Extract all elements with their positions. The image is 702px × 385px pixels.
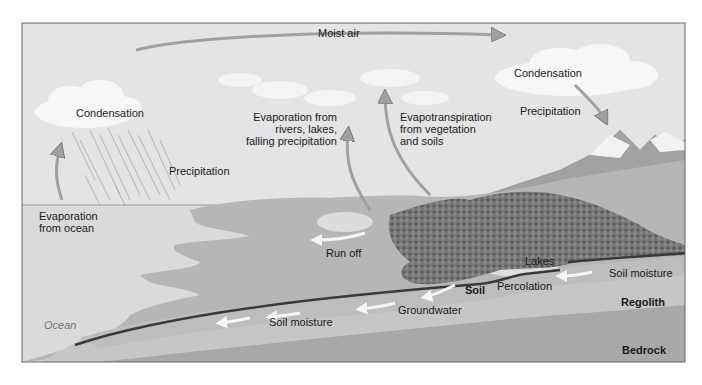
- label-regolith: Regolith: [621, 296, 665, 308]
- label-soil-moisture-right: Soil moisture: [609, 267, 673, 279]
- label-groundwater: Groundwater: [398, 304, 462, 316]
- label-percolation: Percolation: [497, 280, 552, 292]
- label-line: falling precipitation: [239, 135, 337, 147]
- label-line: from ocean: [39, 222, 98, 234]
- label-ocean: Ocean: [44, 319, 76, 331]
- label-soil: Soil: [465, 284, 485, 296]
- label-lakes: Lakes: [525, 255, 554, 267]
- label-condensation-left: Condensation: [76, 107, 144, 119]
- water-cycle-diagram: Moist air Condensation Precipitation Eva…: [0, 0, 702, 385]
- label-line: from vegetation: [400, 123, 492, 135]
- label-precipitation-right: Precipitation: [520, 105, 581, 117]
- label-line: Evaporation from: [239, 111, 337, 123]
- label-evaporation-rivers: Evaporation from rivers, lakes, falling …: [239, 111, 337, 147]
- label-line: rivers, lakes,: [239, 123, 337, 135]
- label-evapotranspiration: Evapotranspiration from vegetation and s…: [400, 111, 492, 147]
- label-run-off: Run off: [326, 247, 361, 259]
- label-moist-air: Moist air: [318, 27, 360, 39]
- label-evaporation-ocean: Evaporation from ocean: [39, 210, 98, 234]
- label-condensation-right: Condensation: [514, 67, 582, 79]
- lake-patch: [317, 212, 373, 232]
- label-line: and soils: [400, 135, 492, 147]
- diagram-canvas: [0, 0, 702, 385]
- label-bedrock: Bedrock: [622, 344, 666, 356]
- label-precipitation-left: Precipitation: [169, 165, 230, 177]
- label-soil-moisture-left: Soil moisture: [269, 316, 333, 328]
- label-line: Evaporation: [39, 210, 98, 222]
- label-line: Evapotranspiration: [400, 111, 492, 123]
